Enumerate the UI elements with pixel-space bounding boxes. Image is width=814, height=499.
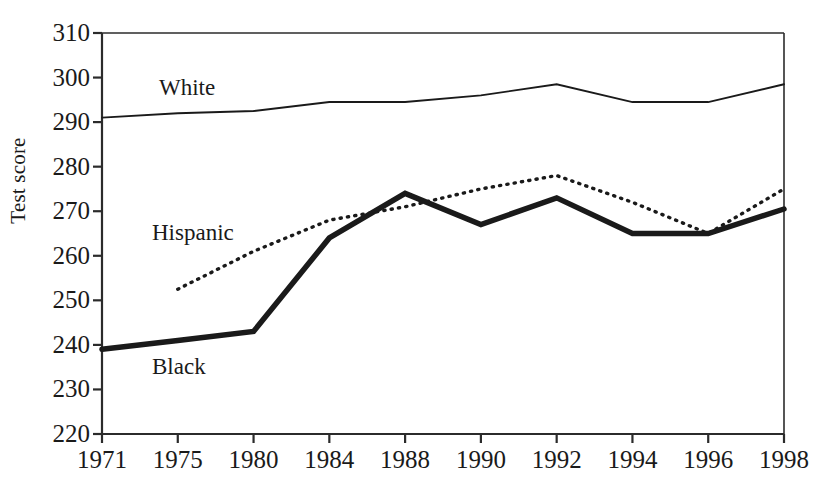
chart-container: Test score 31030029028027026025024023022… — [0, 0, 814, 499]
x-tick-label: 1998 — [734, 447, 814, 472]
series-label-black: Black — [152, 355, 206, 378]
series-label-white: White — [159, 76, 215, 99]
series-label-hispanic: Hispanic — [152, 221, 234, 244]
x-axis-tick-labels: 1971197519801984198819901992199419961998 — [0, 0, 814, 499]
